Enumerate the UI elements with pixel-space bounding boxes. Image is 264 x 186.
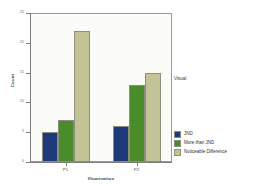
bar [74,31,90,162]
y-tick-label: 0 [0,160,24,164]
x-tick-label: P1 [51,167,81,172]
legend-item: More than JND [174,139,262,148]
bar [129,85,145,162]
x-tick-mark [66,162,67,166]
x-tick-mark [137,162,138,166]
y-tick-mark [26,132,30,133]
legend-item: Noticeable Difference [174,148,262,157]
bar [42,132,58,162]
y-tick-mark [26,13,30,14]
y-tick-label: 5 [0,130,24,134]
legend-item: JND [174,130,262,139]
y-axis-title: Count [10,66,15,96]
legend-swatch [174,140,181,147]
y-tick-label: 10 [0,100,24,104]
chart-legend: JNDMore than JNDNoticeable Difference [174,130,262,157]
legend-swatch [174,131,181,138]
y-axis [30,13,31,162]
legend-label: Noticeable Difference [184,150,227,155]
y-tick-mark [26,102,30,103]
bar [145,73,161,162]
visual-label: Visual [174,76,186,81]
y-tick-label: 20 [0,41,24,45]
x-tick-label: P2 [122,167,152,172]
y-tick-mark [26,43,30,44]
bar [113,126,129,162]
x-axis [30,162,172,163]
legend-label: JND [184,132,193,137]
legend-label: More than JND [184,141,214,146]
bar [58,120,74,162]
bar-chart: 0510152025 Count P1P2 Illumination Visua… [0,0,264,186]
y-tick-mark [26,73,30,74]
x-axis-title: Illumination [30,176,172,181]
y-tick-label: 25 [0,11,24,15]
legend-swatch [174,149,181,156]
